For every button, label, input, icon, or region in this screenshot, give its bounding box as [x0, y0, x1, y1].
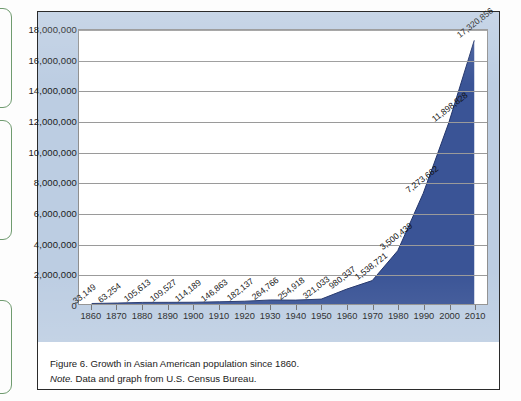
x-axis-tick	[193, 305, 194, 310]
x-axis-tick-label: 1890	[157, 311, 178, 321]
gridline	[79, 245, 487, 246]
x-axis-tick-label: 1880	[132, 311, 153, 321]
x-axis-tick-label: 1860	[80, 311, 101, 321]
margin-callout-box-3	[0, 300, 12, 394]
x-axis-tick-label: 1870	[106, 311, 127, 321]
caption-line-1: Figure 6. Growth in Asian American popul…	[50, 356, 499, 371]
y-axis-labels: 02,000,0004,000,0006,000,0008,000,00010,…	[33, 29, 77, 305]
gridline	[79, 61, 487, 62]
gridline	[79, 153, 487, 154]
x-axis-tick	[116, 305, 117, 310]
x-axis-tick-label: 1910	[209, 311, 230, 321]
x-axis-tick	[475, 305, 476, 310]
x-axis-tick-label: 1920	[234, 311, 255, 321]
margin-callout-box-2	[0, 120, 12, 240]
x-axis-tick-label: 1940	[285, 311, 306, 321]
margin-callout-box-1	[0, 8, 12, 108]
x-axis-tick	[168, 305, 169, 310]
x-axis-tick	[321, 305, 322, 310]
x-axis-tick	[142, 305, 143, 310]
caption-note-label: Note.	[50, 373, 73, 384]
gridline	[79, 183, 487, 184]
gridline	[79, 91, 487, 92]
x-axis-labels: 1860187018801890190019101920193019401950…	[78, 311, 488, 327]
x-axis-tick	[373, 305, 374, 310]
gridline	[79, 122, 487, 123]
chart-panel: 02,000,0004,000,0006,000,0008,000,00010,…	[38, 12, 499, 342]
figure-frame: 02,000,0004,000,0006,000,0008,000,00010,…	[37, 11, 500, 390]
x-axis-tick-label: 1990	[414, 311, 435, 321]
gridline	[79, 214, 487, 215]
x-axis-tick-label: 1900	[183, 311, 204, 321]
y-axis-tick-label: 8,000,000	[34, 177, 77, 188]
x-axis-tick	[296, 305, 297, 310]
y-axis-tick-label: 6,000,000	[34, 208, 77, 219]
x-axis-tick	[245, 305, 246, 310]
caption-note-text: Data and graph from U.S. Census Bureau.	[73, 373, 256, 384]
x-axis-tick	[424, 305, 425, 310]
gridline	[79, 275, 487, 276]
x-axis-tick-label: 2010	[465, 311, 486, 321]
x-axis-tick-label: 1960	[337, 311, 358, 321]
caption-line-2: Note. Data and graph from U.S. Census Bu…	[50, 371, 499, 386]
x-axis-tick	[270, 305, 271, 310]
y-axis-tick-label: 12,000,000	[28, 116, 77, 127]
y-axis-tick-label: 14,000,000	[28, 85, 77, 96]
x-axis-tick-label: 1970	[362, 311, 383, 321]
page-background: 02,000,0004,000,0006,000,0008,000,00010,…	[0, 0, 521, 401]
y-axis-tick-label: 16,000,000	[28, 54, 77, 65]
y-axis-tick-label: 4,000,000	[34, 238, 77, 249]
x-axis-tick	[91, 305, 92, 310]
figure-caption: Figure 6. Growth in Asian American popul…	[38, 342, 499, 389]
x-axis-tick-label: 2000	[439, 311, 460, 321]
x-axis-tick	[219, 305, 220, 310]
x-axis-tick-label: 1930	[260, 311, 281, 321]
y-axis-tick-label: 0	[72, 300, 77, 311]
area-series	[79, 30, 487, 304]
x-axis-tick	[398, 305, 399, 310]
y-axis-tick-label: 10,000,000	[28, 146, 77, 157]
x-axis-tick	[347, 305, 348, 310]
plot-area	[78, 29, 488, 305]
y-axis-tick-label: 2,000,000	[34, 269, 77, 280]
gridline	[79, 30, 487, 31]
x-axis-tick-label: 1950	[311, 311, 332, 321]
y-axis-tick-label: 18,000,000	[28, 24, 77, 35]
x-axis-tick-label: 1980	[388, 311, 409, 321]
x-axis-tick	[450, 305, 451, 310]
